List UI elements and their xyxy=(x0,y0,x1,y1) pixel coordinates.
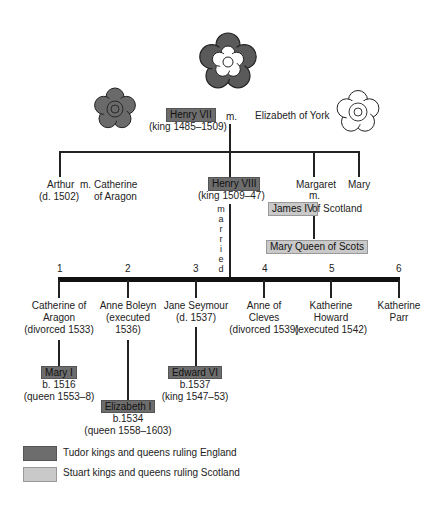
james-drop xyxy=(313,216,315,239)
wife-number: 5 xyxy=(329,263,335,274)
descent-line xyxy=(229,124,231,152)
red-rose-icon xyxy=(92,86,138,132)
married-letter: d xyxy=(217,264,225,274)
white-rose-icon xyxy=(334,88,382,136)
edward-vi-reign: (king 1547–53) xyxy=(152,391,238,403)
elizabeth-i-born: b.1534 xyxy=(78,413,178,425)
legend-tudor-label: Tudor kings and queens ruling England xyxy=(63,447,237,459)
edward6-drop xyxy=(195,327,197,367)
elizabeth-of-york-label: Elizabeth of York xyxy=(255,110,330,122)
wife-name-2: Howard xyxy=(290,312,372,324)
wife-6: Katherine Parr xyxy=(366,300,432,324)
mary-i-born: b. 1516 xyxy=(18,379,100,391)
henry-vii-label: Henry VII xyxy=(166,108,216,122)
wife-number: 3 xyxy=(193,263,199,274)
edward-vi: Edward VI b.1537 (king 1547–53) xyxy=(152,367,238,403)
elizabeth-i-reign: (queen 1558–1603) xyxy=(78,425,178,437)
wife-fate-2: 1536) xyxy=(88,324,168,336)
wife-5: Katherine Howard (executed 1542) xyxy=(290,300,372,336)
legend-stuart-label: Stuart kings and queens ruling Scotland xyxy=(63,467,240,479)
arthur-label: Arthur xyxy=(47,179,74,191)
wife-drop xyxy=(263,280,265,298)
margaret-drop xyxy=(313,151,315,177)
married-letter: r xyxy=(217,234,225,244)
elizabeth-i-label: Elizabeth I xyxy=(101,400,156,413)
wife-drop xyxy=(127,280,129,298)
edward-vi-born: b.1537 xyxy=(152,379,238,391)
wives-bar xyxy=(58,277,400,282)
james-iv-label: James IV xyxy=(268,202,318,216)
legend-stuart-swatch xyxy=(23,467,57,482)
arthur-died: (d. 1502) xyxy=(39,191,79,203)
mary-drop xyxy=(358,151,360,177)
elizabeth-i: Elizabeth I b.1534 (queen 1558–1603) xyxy=(78,401,178,437)
henry8-marriage-line xyxy=(229,204,231,277)
mary-label: Mary xyxy=(348,179,370,191)
tudor-rose-icon xyxy=(196,30,260,94)
sibling-line xyxy=(59,151,360,153)
arthur-married-marker: m. xyxy=(80,179,91,191)
henry8-drop xyxy=(229,151,231,177)
wife-drop xyxy=(398,280,400,298)
wife-number: 2 xyxy=(125,263,131,274)
wife-name: Katherine xyxy=(290,300,372,312)
wife-drop xyxy=(195,280,197,298)
married-letter: m xyxy=(217,204,225,214)
edward-vi-label: Edward VI xyxy=(168,366,222,379)
catherine-label-2: of Aragon xyxy=(94,191,137,203)
henry-vii-reign: (king 1485–1509) xyxy=(149,121,227,133)
wife-drop xyxy=(58,280,60,298)
arthur-drop xyxy=(59,151,61,177)
married-letter: a xyxy=(217,214,225,224)
wife-number: 4 xyxy=(262,263,268,274)
married-letter: e xyxy=(217,254,225,264)
married-letter: r xyxy=(217,224,225,234)
married-letter: i xyxy=(217,244,225,254)
wife-number: 1 xyxy=(57,263,63,274)
mary-i-label: Mary I xyxy=(41,366,77,379)
henry-viii-label: Henry VIII xyxy=(208,177,260,191)
mary1-drop xyxy=(58,340,60,367)
married-marker: m. xyxy=(226,111,237,123)
margaret-married-marker: m. xyxy=(309,190,320,202)
james-iv-suffix: of Scotland xyxy=(312,203,362,215)
elizabeth1-drop xyxy=(127,340,129,400)
wife-name: Katherine xyxy=(366,300,432,312)
mary-queen-of-scots-label: Mary Queen of Scots xyxy=(266,240,368,254)
legend-tudor-swatch xyxy=(23,446,57,461)
wife-drop xyxy=(330,280,332,298)
wife-number: 6 xyxy=(396,263,402,274)
henry-viii-reign: (king 1509–47) xyxy=(198,190,265,202)
wife-fate: (executed 1542) xyxy=(290,324,372,336)
wife-name-2: Parr xyxy=(366,312,432,324)
catherine-label-1: Catherine xyxy=(94,179,137,191)
mary-i: Mary I b. 1516 (queen 1553–8) xyxy=(18,367,100,403)
